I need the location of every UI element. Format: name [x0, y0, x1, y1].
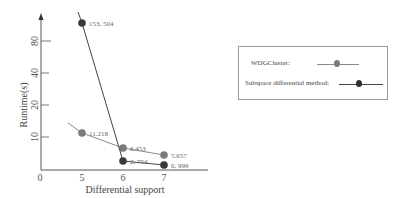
x-tick-label-5: 5 — [80, 172, 85, 183]
wdgcluster-point-5 — [78, 129, 86, 137]
subspace-point-7 — [160, 161, 168, 169]
wdgcluster-label-7: 5.657 — [171, 152, 187, 160]
legend-item-subspace: Subspace differential method: — [239, 77, 387, 91]
subspace-point-6 — [119, 157, 127, 165]
x-tick-label-6: 6 — [121, 172, 126, 183]
subspace-point-5 — [78, 19, 86, 27]
y-tick-label-10: 10 — [29, 132, 40, 142]
legend-label-wdgcluster: WDGCluster: — [251, 59, 290, 67]
y-tick-label-20: 20 — [29, 100, 40, 110]
wdgcluster-point-7 — [160, 151, 168, 159]
wdgcluster-label-5: 11.218 — [89, 130, 108, 138]
legend-marker-subspace-icon — [356, 80, 362, 87]
x-axis-title: Differential support — [86, 184, 165, 195]
y-tick-label-40: 40 — [29, 68, 40, 78]
y-axis-arrow-icon — [39, 13, 44, 20]
subspace-label-6: 2, 754 — [130, 158, 148, 166]
legend-item-wdgcluster: WDGCluster: — [239, 57, 387, 71]
series-wdgcluster: 11.218 6.453 5.657 — [68, 123, 187, 160]
x-tick-label-0: 0 — [38, 172, 43, 183]
y-tick-label-80: 80 — [29, 36, 40, 46]
legend: WDGCluster: Subspace differential method… — [238, 46, 388, 100]
x-tick-label-7: 7 — [162, 172, 167, 183]
subspace-label-5: 153, 504 — [89, 20, 114, 28]
y-axis-title: Runtime(s) — [18, 83, 30, 128]
wdgcluster-label-6: 6.453 — [130, 145, 146, 153]
subspace-label-7: 0, 999 — [171, 162, 189, 170]
legend-label-subspace: Subspace differential method: — [245, 79, 329, 87]
legend-marker-wdgcluster-icon — [334, 60, 340, 67]
subspace-line — [78, 12, 164, 165]
